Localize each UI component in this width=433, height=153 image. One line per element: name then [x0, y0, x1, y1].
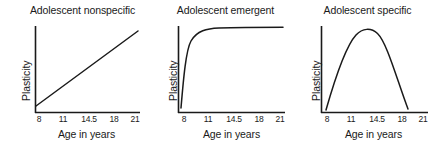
- y-axis-label: Plasticity: [310, 61, 322, 101]
- x-tick-label: 11: [347, 114, 355, 124]
- x-tick-label: 21: [275, 114, 284, 124]
- y-axis-label: Plasticity: [167, 61, 179, 101]
- x-tick-label: 8: [325, 114, 330, 124]
- x-axis-label: Age in years: [145, 128, 304, 140]
- x-tick-label: 14.5: [226, 114, 242, 124]
- panel-adolescent-specific: Adolescent specific Plasticity 8 11 14.5…: [290, 0, 433, 153]
- x-tick-label: 18: [254, 114, 263, 124]
- panel-adolescent-emergent: Adolescent emergent Plasticity 8 11 14.5…: [145, 0, 290, 153]
- x-tick-label: 21: [130, 114, 139, 124]
- plasticity-figure: Adolescent nonspecific Plasticity 8 11 1…: [0, 0, 433, 153]
- data-line-linear: [36, 31, 138, 106]
- y-axis-label: Plasticity: [20, 61, 32, 101]
- data-line-asymptotic: [181, 27, 283, 108]
- x-tick-label: 18: [109, 114, 118, 124]
- x-tick-label: 18: [397, 114, 406, 124]
- x-tick-label: 11: [59, 114, 67, 124]
- x-tick-label: 14.5: [81, 114, 97, 124]
- x-tick-label: 8: [37, 114, 42, 124]
- data-line-inverted-u: [326, 29, 408, 110]
- panel-adolescent-nonspecific: Adolescent nonspecific Plasticity 8 11 1…: [0, 0, 145, 153]
- x-axis-label: Age in years: [0, 128, 159, 140]
- x-tick-label: 8: [182, 114, 187, 124]
- x-tick-label: 21: [418, 114, 427, 124]
- x-tick-label: 14.5: [369, 114, 385, 124]
- x-tick-label: 11: [204, 114, 212, 124]
- x-axis-label: Age in years: [290, 128, 433, 140]
